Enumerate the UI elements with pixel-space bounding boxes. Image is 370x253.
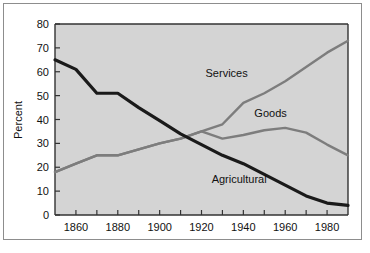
- x-axis-tick-label: 1960: [273, 221, 297, 233]
- x-axis-tick-label: 1900: [147, 221, 171, 233]
- x-axis-tick-label: 1880: [106, 221, 130, 233]
- y-axis-tick-label: 50: [37, 90, 49, 102]
- y-axis-title-group: Percent: [12, 101, 24, 139]
- chart-figure: 0102030405060708018601880190019201940196…: [0, 0, 370, 253]
- x-axis-tick-label: 1980: [315, 221, 339, 233]
- y-axis-tick-label: 0: [43, 209, 49, 221]
- x-axis-tick-label: 1940: [231, 221, 255, 233]
- y-axis-tick-label: 80: [37, 18, 49, 30]
- x-axis-tick-label: 1860: [64, 221, 88, 233]
- y-axis-tick-label: 30: [37, 137, 49, 149]
- line-chart: 0102030405060708018601880190019201940196…: [0, 0, 370, 253]
- plot-area-group: [55, 24, 348, 215]
- y-axis-tick-label: 60: [37, 66, 49, 78]
- series-label-services: Services: [206, 67, 249, 79]
- y-axis-tick-label: 20: [37, 161, 49, 173]
- series-label-goods: Goods: [254, 107, 287, 119]
- y-axis-tick-label: 40: [37, 114, 49, 126]
- y-axis-tick-label: 10: [37, 185, 49, 197]
- y-axis-tick-label: 70: [37, 42, 49, 54]
- series-label-agricultural: Agricultural: [212, 173, 267, 185]
- x-axis-tick-label: 1920: [189, 221, 213, 233]
- plot-background: [55, 24, 348, 215]
- y-axis-title: Percent: [12, 101, 24, 139]
